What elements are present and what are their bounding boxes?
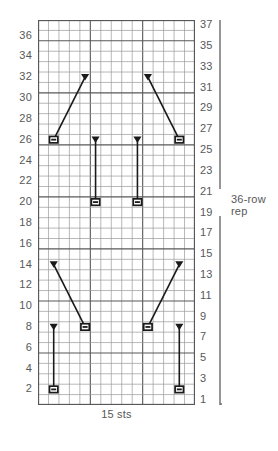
repeat-label-line1: 36-row <box>231 193 266 205</box>
row-number-21: 21 <box>200 186 226 196</box>
row-number-26: 26 <box>6 134 32 144</box>
row-number-12: 12 <box>6 279 32 289</box>
row-number-9: 9 <box>200 311 226 321</box>
stitch-count-label: 15 sts <box>38 408 195 420</box>
row-number-28: 28 <box>6 113 32 123</box>
row-number-23: 23 <box>200 165 226 175</box>
row-number-11: 11 <box>200 290 226 300</box>
row-number-31: 31 <box>200 82 226 92</box>
row-number-6: 6 <box>6 342 32 352</box>
row-number-33: 33 <box>200 61 226 71</box>
row-number-14: 14 <box>6 259 32 269</box>
row-number-27: 27 <box>200 123 226 133</box>
row-number-34: 34 <box>6 50 32 60</box>
repeat-bracket-line <box>218 20 222 405</box>
row-number-32: 32 <box>6 71 32 81</box>
knitting-chart: 36343230282624222018161412108642 3735333… <box>0 0 278 451</box>
row-number-2: 2 <box>6 383 32 393</box>
row-number-13: 13 <box>200 269 226 279</box>
chart-grid <box>38 20 195 405</box>
row-number-10: 10 <box>6 300 32 310</box>
row-number-1: 1 <box>200 394 226 404</box>
row-number-19: 19 <box>200 207 226 217</box>
row-number-37: 37 <box>200 19 226 29</box>
row-number-25: 25 <box>200 144 226 154</box>
repeat-bracket <box>218 20 222 405</box>
row-number-15: 15 <box>200 248 226 258</box>
row-number-7: 7 <box>200 331 226 341</box>
repeat-label: 36-row rep <box>231 193 266 217</box>
row-number-5: 5 <box>200 352 226 362</box>
row-number-30: 30 <box>6 92 32 102</box>
row-number-8: 8 <box>6 321 32 331</box>
row-number-36: 36 <box>6 30 32 40</box>
row-number-20: 20 <box>6 196 32 206</box>
row-number-35: 35 <box>200 40 226 50</box>
row-number-24: 24 <box>6 155 32 165</box>
row-number-3: 3 <box>200 373 226 383</box>
repeat-label-line2: rep <box>231 205 266 217</box>
row-number-22: 22 <box>6 175 32 185</box>
row-number-29: 29 <box>200 102 226 112</box>
row-number-17: 17 <box>200 227 226 237</box>
row-number-4: 4 <box>6 363 32 373</box>
chart-grid-svg <box>38 20 195 405</box>
row-number-18: 18 <box>6 217 32 227</box>
row-number-16: 16 <box>6 238 32 248</box>
